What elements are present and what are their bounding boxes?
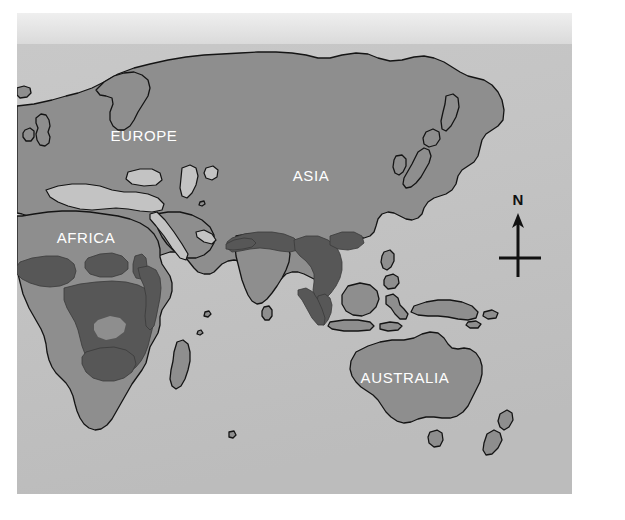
great-britain <box>36 114 50 146</box>
map-figure: EUROPE ASIA AFRICA AUSTRALIA N <box>0 0 625 520</box>
island-speck-3 <box>197 330 203 335</box>
frame-right-margin <box>572 0 625 520</box>
aral-sea <box>204 166 218 180</box>
black-sea <box>126 169 162 186</box>
new-britain <box>466 321 481 328</box>
philippines-south <box>384 274 399 289</box>
solomon-islands <box>483 310 498 319</box>
java-island <box>328 320 374 331</box>
frame-left-margin <box>0 0 17 520</box>
compass-north-letter: N <box>513 191 524 208</box>
island-speck-1 <box>229 431 236 438</box>
lesser-sunda-islands <box>380 322 402 331</box>
ireland <box>23 128 34 141</box>
top-light-band <box>17 13 572 44</box>
world-map-svg: EUROPE ASIA AFRICA AUSTRALIA N <box>0 0 625 520</box>
label-europe: EUROPE <box>111 127 178 144</box>
tasmania <box>428 430 443 447</box>
label-australia: AUSTRALIA <box>361 369 450 386</box>
label-africa: AFRICA <box>57 229 116 246</box>
range-sahel-central <box>85 253 128 277</box>
label-asia: ASIA <box>293 167 330 184</box>
range-south-china <box>330 232 364 250</box>
frame-top-margin <box>0 0 625 13</box>
island-speck-4 <box>199 201 205 206</box>
sri-lanka <box>262 306 272 320</box>
frame-bottom-margin <box>0 494 625 520</box>
